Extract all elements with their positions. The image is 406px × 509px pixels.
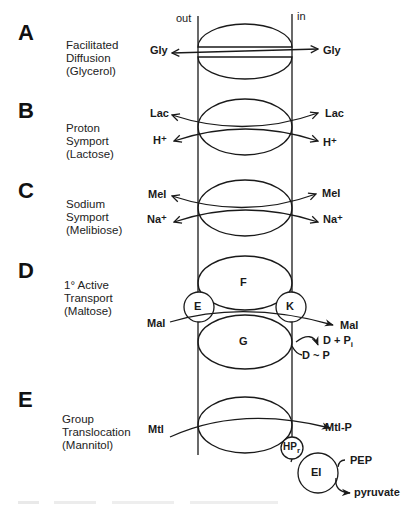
desc-line: (Lactose) xyxy=(66,148,114,161)
panel-letter-d: D xyxy=(18,258,34,284)
label-pep: PEP xyxy=(350,454,372,466)
arrow-lac xyxy=(172,113,318,127)
desc-line: Symport xyxy=(66,135,114,148)
desc-line: Facilitated xyxy=(66,39,118,52)
label-mtl-p: Mtl-P xyxy=(325,421,352,433)
desc-line: Proton xyxy=(66,122,114,135)
label-mtl: Mtl xyxy=(148,423,164,435)
arrow-gly-out xyxy=(172,51,245,53)
label-atp: D ~ P xyxy=(302,349,330,361)
panel-desc-d: 1° Active Transport (Maltose) xyxy=(64,279,113,318)
label-mel-in: Mel xyxy=(322,187,340,199)
label-h-in: H⁺ xyxy=(323,136,337,149)
label-na-out: Na⁺ xyxy=(147,213,167,226)
label-gly-in: Gly xyxy=(323,44,341,56)
cropped-caption xyxy=(18,501,278,504)
label-subunit-f: F xyxy=(240,276,247,288)
label-lac-out: Lac xyxy=(150,107,169,119)
channel-bottom-half xyxy=(198,57,292,79)
desc-line: Sodium xyxy=(66,198,122,211)
arrow-pyruvate xyxy=(336,478,350,493)
desc-line: Transport xyxy=(64,292,113,305)
desc-line: Symport xyxy=(66,211,122,224)
label-subunit-e: E xyxy=(194,300,201,312)
atp-line xyxy=(292,346,302,355)
desc-line: (Maltose) xyxy=(64,305,113,318)
label-mel-out: Mel xyxy=(148,188,166,200)
label-pyruvate: pyruvate xyxy=(354,486,400,498)
arrow-h xyxy=(174,129,318,141)
pep-line xyxy=(338,460,345,467)
panel-letter-a: A xyxy=(18,20,34,46)
desc-line: (Glycerol) xyxy=(66,65,118,78)
desc-line: (Melibiose) xyxy=(66,224,122,237)
in-label: in xyxy=(297,10,306,22)
arrow-na xyxy=(174,210,318,222)
arrow-atp-hydrolysis xyxy=(296,337,318,345)
panel-desc-e: Group Translocation (Mannitol) xyxy=(62,413,131,452)
arrow-mtl xyxy=(170,418,330,437)
desc-line: Diffusion xyxy=(66,52,118,65)
panel-letter-b: B xyxy=(18,98,34,124)
arrow-mel xyxy=(172,194,316,208)
label-gly-out: Gly xyxy=(150,44,168,56)
panel-desc-a: Facilitated Diffusion (Glycerol) xyxy=(66,39,118,78)
panel-desc-b: Proton Symport (Lactose) xyxy=(66,122,114,161)
label-adp-pi: D + Pi xyxy=(323,334,353,349)
out-label: out xyxy=(176,12,191,24)
label-hpr: HPr xyxy=(283,441,300,455)
label-lac-in: Lac xyxy=(325,107,344,119)
desc-line: Translocation xyxy=(62,426,131,439)
panel-desc-c: Sodium Symport (Melibiose) xyxy=(66,198,122,237)
label-na-in: Na⁺ xyxy=(323,213,343,226)
channel-top-half xyxy=(198,24,292,47)
panel-letter-e: E xyxy=(18,387,33,413)
label-subunit-k: K xyxy=(286,300,294,312)
label-mal-in: Mal xyxy=(340,319,358,331)
label-mal-out: Mal xyxy=(147,317,165,329)
desc-line: Group xyxy=(62,413,131,426)
label-subunit-g: G xyxy=(239,335,248,347)
enzyme-ii xyxy=(198,397,292,453)
desc-line: 1° Active xyxy=(64,279,113,292)
desc-line: (Mannitol) xyxy=(62,439,131,452)
arrow-gly-in xyxy=(245,49,318,51)
label-ei: EI xyxy=(311,466,321,478)
panel-letter-c: C xyxy=(18,178,34,204)
label-h-out: H⁺ xyxy=(153,134,167,147)
